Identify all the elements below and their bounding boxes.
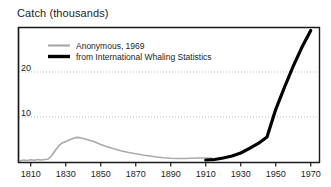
x-tick-label-1870: 1870 [126, 169, 146, 179]
x-tick-label-1970: 1970 [301, 169, 321, 179]
y-tick-label-20: 20 [21, 63, 31, 73]
x-tick-label-1950: 1950 [266, 169, 286, 179]
x-tick-label-1910: 1910 [196, 169, 216, 179]
x-tick-label-1930: 1930 [231, 169, 251, 179]
legend-label-anonymous-1969: Anonymous, 1969 [76, 41, 145, 51]
x-tick-label-1830: 1830 [56, 169, 76, 179]
x-tick-label-1890: 1890 [161, 169, 181, 179]
chart-plot-area: 181018301850187018901910193019501970 20 … [0, 0, 331, 187]
legend-label-international-whaling-statistics: from International Whaling Statistics [76, 52, 212, 62]
x-tick-label-1810: 1810 [21, 169, 41, 179]
x-tick-label-1850: 1850 [91, 169, 111, 179]
chart-figure: Catch (thousands) 1810183018501870189019… [0, 0, 331, 187]
x-axis-tick-labels: 181018301850187018901910193019501970 [21, 169, 321, 179]
y-tick-label-10: 10 [21, 108, 31, 118]
